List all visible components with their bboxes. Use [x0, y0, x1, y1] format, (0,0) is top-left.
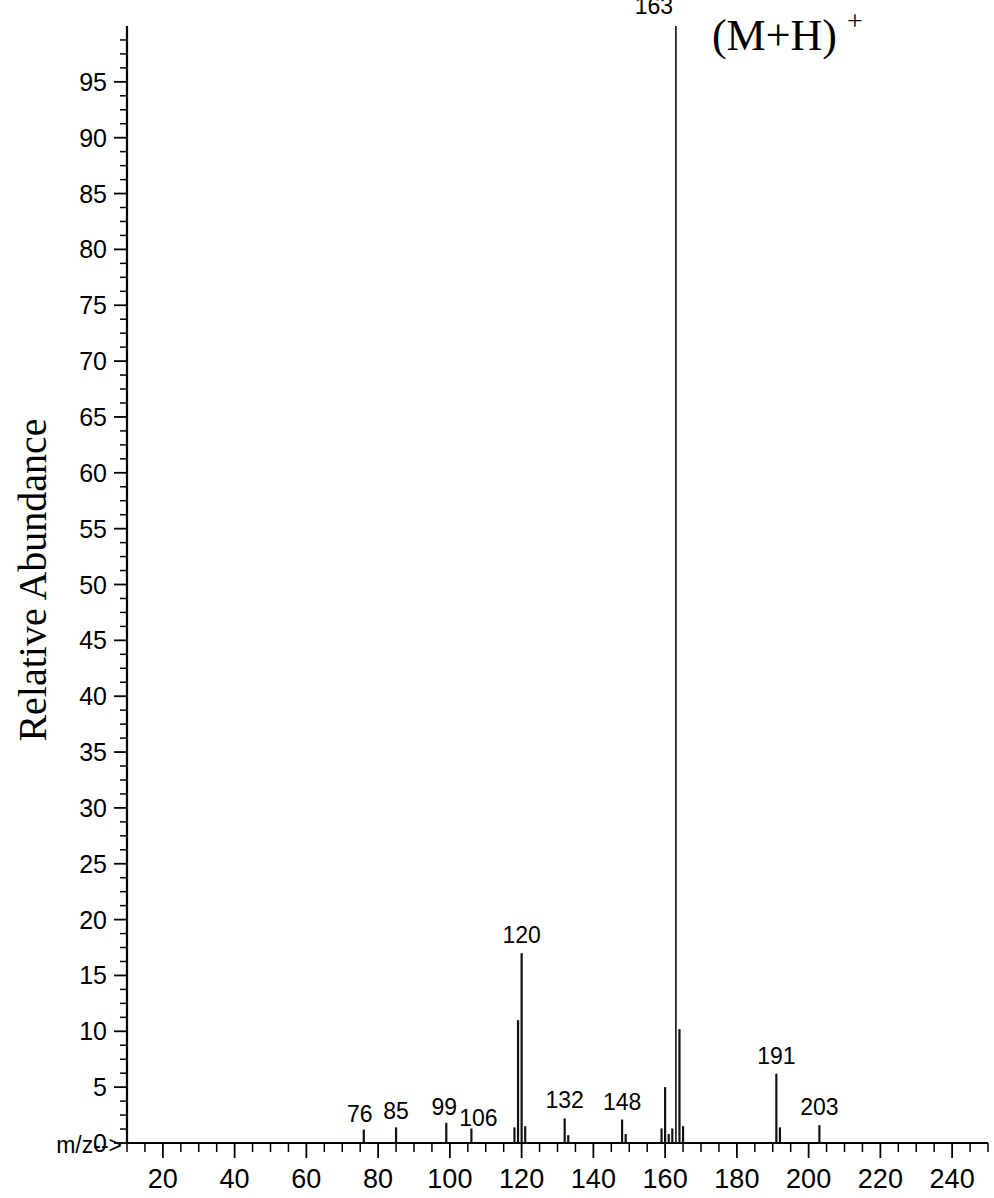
- peak-labels: 768599106120132148163191203: [347, 0, 839, 1131]
- y-tick-label: 50: [79, 571, 107, 599]
- peak-label: 203: [800, 1094, 838, 1120]
- x-tick-label: 100: [427, 1164, 472, 1194]
- peak-label: 120: [502, 922, 540, 948]
- x-axis-title: m/z-->: [56, 1132, 122, 1158]
- peak-label: 148: [603, 1089, 641, 1115]
- y-tick-label: 40: [79, 682, 107, 710]
- x-tick-label: 140: [571, 1164, 616, 1194]
- x-tick-label: 60: [291, 1164, 321, 1194]
- y-tick-label: 60: [79, 459, 107, 487]
- y-tick-label: 65: [79, 403, 107, 431]
- x-tick-label: 180: [714, 1164, 759, 1194]
- y-tick-label: 30: [79, 794, 107, 822]
- peak-label: 106: [459, 1105, 497, 1131]
- y-tick-label: 10: [79, 1017, 107, 1045]
- x-axis-ticks: [127, 1143, 988, 1158]
- spectrum-peaks: [364, 26, 820, 1143]
- x-tick-label: 40: [220, 1164, 250, 1194]
- molecular-ion-label: (M+H): [712, 11, 837, 60]
- y-tick-label: 55: [79, 515, 107, 543]
- y-tick-label: 80: [79, 235, 107, 263]
- y-tick-label: 20: [79, 906, 107, 934]
- peak-label: 76: [347, 1101, 373, 1127]
- x-tick-label: 220: [858, 1164, 903, 1194]
- y-tick-label: 25: [79, 850, 107, 878]
- peak-label: 85: [383, 1098, 409, 1124]
- y-tick-label: 90: [79, 124, 107, 152]
- x-tick-label: 20: [148, 1164, 178, 1194]
- spectrum-svg: Relative Abundance m/z--> 05101520253035…: [0, 0, 994, 1198]
- y-tick-label: 15: [79, 961, 107, 989]
- x-tick-label: 240: [930, 1164, 975, 1194]
- x-tick-label: 200: [786, 1164, 831, 1194]
- y-tick-label: 70: [79, 347, 107, 375]
- peak-label: 132: [545, 1087, 583, 1113]
- peak-label: 99: [431, 1094, 457, 1120]
- mass-spectrum-chart: Relative Abundance m/z--> 05101520253035…: [0, 0, 994, 1198]
- charge-superscript: +: [847, 5, 863, 36]
- peak-label: 191: [757, 1043, 795, 1069]
- y-tick-label: 85: [79, 180, 107, 208]
- peak-label: 163: [635, 0, 673, 19]
- x-tick-label: 80: [363, 1164, 393, 1194]
- y-axis-tick-labels: 05101520253035404550556065707580859095: [79, 68, 107, 1157]
- chart-annotations: (M+H)+: [712, 5, 863, 60]
- x-axis-tick-labels: 20406080100120140160180200220240: [148, 1164, 975, 1194]
- x-tick-label: 120: [499, 1164, 544, 1194]
- y-tick-label: 5: [93, 1073, 107, 1101]
- y-tick-label: 0: [93, 1129, 107, 1157]
- x-tick-label: 160: [643, 1164, 688, 1194]
- y-axis-ticks: [114, 40, 127, 1143]
- y-tick-label: 45: [79, 626, 107, 654]
- y-tick-label: 35: [79, 738, 107, 766]
- y-tick-label: 95: [79, 68, 107, 96]
- y-axis-title: Relative Abundance: [10, 418, 55, 741]
- y-tick-label: 75: [79, 291, 107, 319]
